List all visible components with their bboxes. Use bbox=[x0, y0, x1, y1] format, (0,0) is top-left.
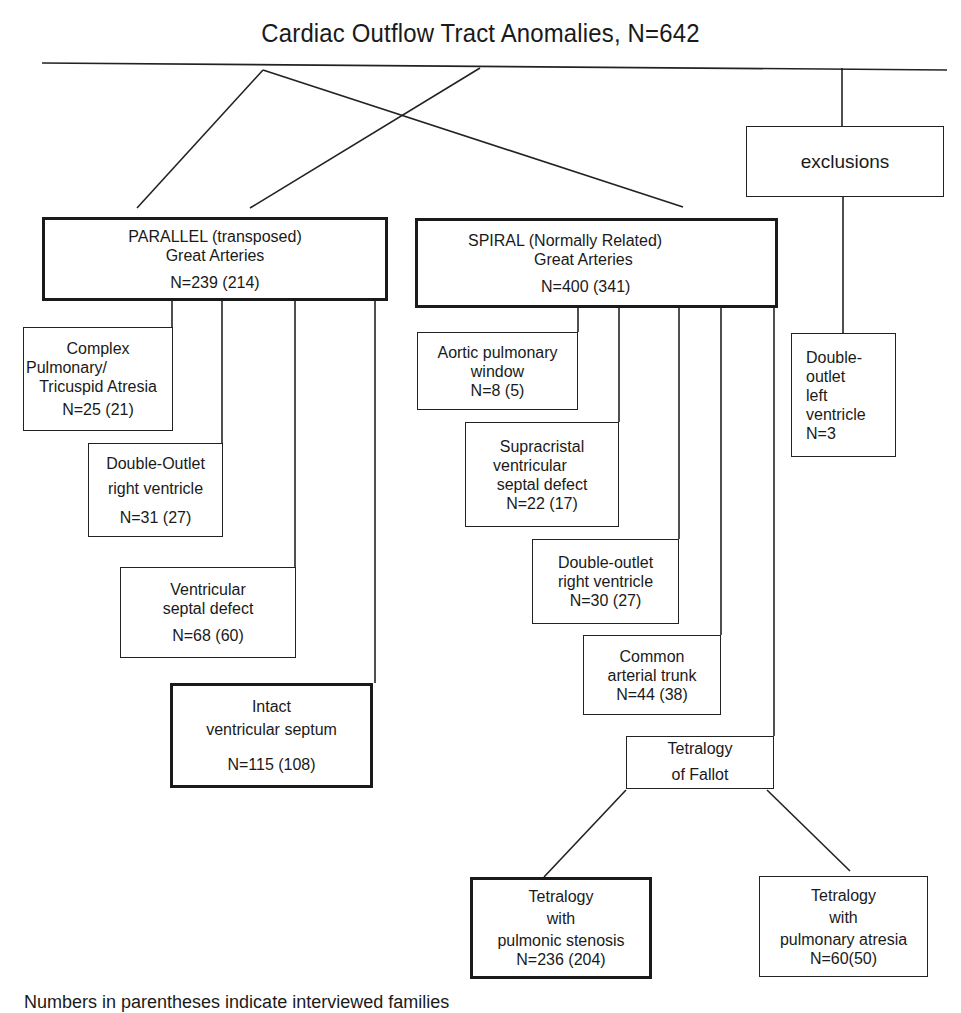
box-label-line: left bbox=[806, 386, 827, 405]
box-label-line: Double-outlet bbox=[558, 553, 653, 572]
supracristal-vsd-box: Supracristal ventricular septal defect N… bbox=[465, 422, 619, 527]
box-count: N=8 (5) bbox=[471, 381, 525, 400]
box-count: N=25 (21) bbox=[62, 400, 134, 419]
tetralogy-pulmonic-stenosis-box: Tetralogy with pulmonic stenosis N=236 (… bbox=[470, 877, 652, 979]
aortic-pulmonary-window-box: Aortic pulmonary window N=8 (5) bbox=[417, 332, 578, 410]
box-label-line: Complex bbox=[66, 339, 129, 358]
parallel-great-arteries-box: PARALLEL (transposed) Great Arteries N=2… bbox=[42, 217, 388, 301]
ventricular-septal-defect-box: Ventricular septal defect N=68 (60) bbox=[120, 567, 296, 658]
box-label-line: Tetralogy bbox=[668, 739, 733, 758]
box-label-line: septal defect bbox=[497, 475, 588, 494]
box-count: N=68 (60) bbox=[172, 626, 244, 645]
box-count: N=3 bbox=[806, 424, 836, 443]
box-label-line: Common bbox=[620, 647, 685, 666]
box-count: N=400 (341) bbox=[468, 277, 630, 296]
box-count: N=22 (17) bbox=[506, 494, 578, 513]
box-count: N=236 (204) bbox=[516, 950, 605, 969]
common-arterial-trunk-box: Common arterial trunk N=44 (38) bbox=[583, 635, 721, 715]
box-label-line: arterial trunk bbox=[608, 666, 697, 685]
box-count: N=239 (214) bbox=[170, 273, 259, 292]
double-outlet-right-ventricle-spiral-box: Double-outlet right ventricle N=30 (27) bbox=[532, 539, 679, 624]
exclusions-box: exclusions bbox=[746, 126, 944, 197]
box-label-line: Pulmonary/ bbox=[24, 358, 107, 377]
box-label-line: with bbox=[829, 908, 857, 927]
box-label-line: Double- bbox=[806, 348, 862, 367]
box-label-line: SPIRAL (Normally Related) bbox=[468, 231, 662, 250]
box-label-line: Great Arteries bbox=[468, 250, 633, 269]
box-label-line: right ventricle bbox=[108, 479, 203, 498]
box-label-line: ventricle bbox=[806, 405, 866, 424]
box-label-line: pulmonic stenosis bbox=[497, 931, 624, 950]
box-label-line: window bbox=[471, 362, 524, 381]
footnote: Numbers in parentheses indicate intervie… bbox=[24, 992, 449, 1013]
box-count: N=115 (108) bbox=[227, 755, 315, 774]
box-label-line: Tricuspid Atresia bbox=[39, 377, 157, 396]
box-label-line: Supracristal bbox=[500, 437, 584, 456]
box-label-line: pulmonary atresia bbox=[780, 930, 907, 949]
intact-ventricular-septum-box: Intact ventricular septum N=115 (108) bbox=[170, 683, 373, 788]
box-label-line: septal defect bbox=[163, 599, 254, 618]
exclusions-label: exclusions bbox=[801, 152, 890, 171]
box-label-line: Ventricular bbox=[170, 580, 246, 599]
spiral-great-arteries-box: SPIRAL (Normally Related) Great Arteries… bbox=[415, 218, 778, 308]
tetralogy-pulmonary-atresia-box: Tetralogy with pulmonary atresia N=60(50… bbox=[759, 876, 928, 977]
box-label-line: Tetralogy bbox=[811, 886, 876, 905]
double-outlet-left-ventricle-box: Double- outlet left ventricle N=3 bbox=[791, 333, 896, 457]
box-count: N=30 (27) bbox=[570, 591, 642, 610]
box-count: N=31 (27) bbox=[120, 508, 192, 527]
double-outlet-right-ventricle-transposed-box: Double-Outlet right ventricle N=31 (27) bbox=[88, 443, 223, 537]
box-label-line: ventricular bbox=[466, 456, 567, 475]
box-label-line: with bbox=[547, 909, 575, 928]
box-label-line: Intact bbox=[252, 697, 291, 716]
diagram-title: Cardiac Outflow Tract Anomalies, N=642 bbox=[38, 18, 922, 49]
box-label-line: outlet bbox=[806, 367, 845, 386]
tetralogy-of-fallot-box: Tetralogy of Fallot bbox=[626, 736, 774, 789]
box-label-line: Double-Outlet bbox=[106, 454, 205, 473]
box-label-line: Aortic pulmonary bbox=[437, 343, 557, 362]
box-label-line: right ventricle bbox=[558, 572, 653, 591]
box-label-line: ventricular septum bbox=[206, 720, 337, 739]
complex-pulmonary-tricuspid-atresia-box: Complex Pulmonary/ Tricuspid Atresia N=2… bbox=[23, 327, 173, 431]
box-count: N=60(50) bbox=[810, 949, 877, 968]
box-label-line: Great Arteries bbox=[166, 246, 265, 265]
box-label-line: Tetralogy bbox=[529, 887, 594, 906]
box-label-line: PARALLEL (transposed) bbox=[128, 227, 301, 246]
box-count: N=44 (38) bbox=[616, 685, 688, 704]
box-label-line: of Fallot bbox=[672, 765, 729, 784]
